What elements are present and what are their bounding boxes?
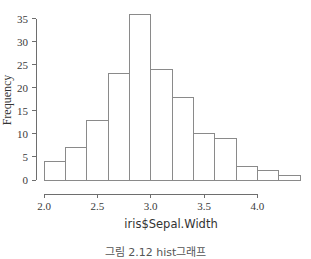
histogram-bar [236, 166, 257, 180]
histogram-bar [257, 171, 278, 180]
y-tick-label: 30 [17, 36, 29, 48]
histogram-chart: 05101520253035 2.02.53.03.54.0 iris$Sepa… [0, 0, 311, 240]
histogram-bar [193, 134, 214, 180]
histogram-bar [172, 97, 193, 180]
histogram-bar [279, 175, 300, 180]
x-tick-label: 4.0 [250, 200, 264, 212]
y-tick-label: 35 [17, 13, 29, 25]
x-tick-label: 2.0 [37, 200, 51, 212]
histogram-bar [44, 162, 65, 180]
y-axis [32, 19, 36, 180]
y-axis-title: Frequency [0, 75, 14, 126]
histogram-figure: 05101520253035 2.02.53.03.54.0 iris$Sepa… [0, 0, 311, 259]
histogram-bar [151, 69, 172, 180]
histogram-bar [108, 74, 129, 180]
histogram-bar [87, 120, 108, 180]
x-tick-label: 2.5 [90, 200, 104, 212]
histogram-bar [129, 14, 150, 180]
y-tick-label: 20 [17, 82, 29, 94]
bars-group [44, 14, 300, 180]
x-tick-label: 3.0 [144, 200, 158, 212]
x-axis-title: iris$Sepal.Width [124, 217, 217, 231]
y-tick-label: 15 [17, 105, 29, 117]
histogram-bar [65, 148, 86, 180]
y-tick-label: 5 [23, 151, 29, 163]
figure-caption: 그림 2.12 hist그래프 [0, 243, 311, 259]
plot-area: 05101520253035 2.02.53.03.54.0 iris$Sepa… [0, 0, 311, 240]
y-tick-label: 25 [17, 59, 29, 71]
x-tick-labels: 2.02.53.03.54.0 [37, 200, 265, 212]
y-tick-label: 10 [17, 128, 29, 140]
y-tick-labels: 05101520253035 [17, 13, 29, 186]
y-tick-label: 0 [23, 174, 29, 186]
histogram-bar [215, 139, 236, 181]
x-axis [44, 194, 257, 198]
x-tick-label: 3.5 [197, 200, 211, 212]
